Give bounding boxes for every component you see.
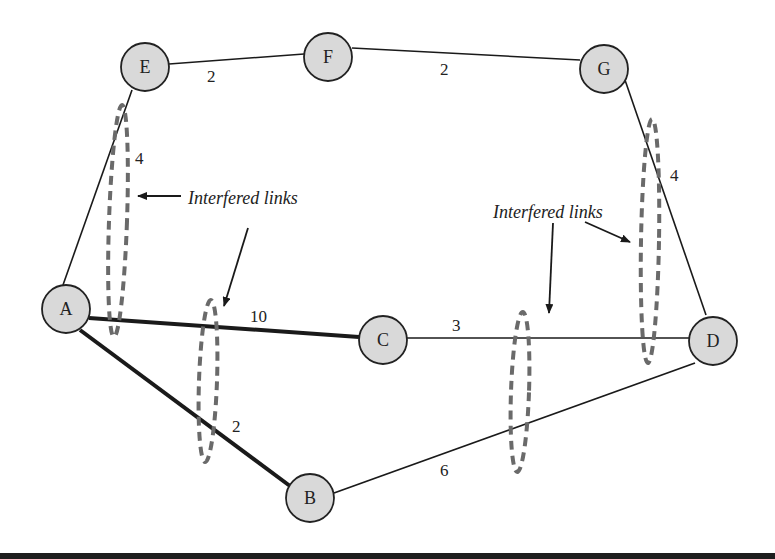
weight-e-a: 4	[135, 149, 144, 168]
node-g: G	[580, 45, 628, 93]
interference-regions	[105, 105, 661, 473]
weight-a-b: 2	[232, 417, 241, 436]
annotation-interfered-links-left: Interfered links	[187, 188, 298, 208]
node-e: E	[121, 43, 169, 91]
edges	[63, 48, 706, 493]
annotation-interfered-links-right: Interfered links	[492, 202, 603, 222]
node-label-g: G	[598, 59, 611, 79]
edge-b-d	[334, 363, 695, 493]
node-c: C	[359, 316, 407, 364]
edge-e-f	[169, 54, 304, 64]
interference-ellipse-4	[639, 119, 661, 363]
weight-e-f: 2	[207, 67, 216, 86]
node-f: F	[304, 33, 352, 81]
bottom-border	[0, 553, 775, 559]
edge-f-g	[352, 48, 580, 60]
arrow-down-to-ellipse-3	[549, 223, 553, 313]
node-label-c: C	[377, 330, 389, 350]
edge-g-d	[625, 80, 706, 315]
node-a: A	[42, 285, 90, 333]
edge-a-b	[80, 330, 290, 486]
node-label-e: E	[140, 57, 151, 77]
weight-b-d: 6	[440, 461, 449, 480]
edge-a-c	[89, 318, 359, 337]
nodes: A B C D E F G	[42, 33, 737, 522]
interference-ellipse-1	[105, 105, 131, 337]
weight-c-d: 3	[452, 316, 461, 335]
node-label-a: A	[60, 299, 73, 319]
weight-f-g: 2	[440, 60, 449, 79]
node-label-f: F	[323, 47, 333, 67]
weight-a-c: 10	[250, 307, 267, 326]
interference-ellipse-3	[508, 312, 532, 473]
node-label-d: D	[707, 331, 720, 351]
arrow-down-to-ellipse-2	[224, 228, 248, 306]
node-b: B	[286, 474, 334, 522]
node-d: D	[689, 317, 737, 365]
network-diagram: 2 2 4 4 10 3 2 6 Interfered links Interf…	[0, 0, 775, 559]
node-label-b: B	[304, 488, 316, 508]
arrow-right-to-ellipse-4	[585, 222, 630, 242]
edge-e-a	[63, 90, 132, 285]
weight-g-d: 4	[670, 166, 679, 185]
